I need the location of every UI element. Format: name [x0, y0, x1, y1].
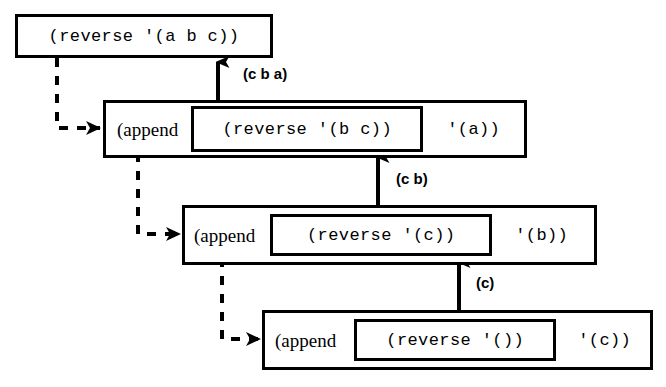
return-label-c: (c) — [476, 275, 494, 290]
call-arrow-1 — [57, 58, 100, 128]
call-frame-append-c[interactable]: (append (reverse '(c)) '(b)) — [182, 205, 597, 265]
append-tail-arg: '(b)) — [515, 227, 568, 244]
call-frame-reverse-abc[interactable]: (reverse '(a b c)) — [15, 14, 273, 58]
inner-expression: (reverse '()) — [386, 332, 524, 349]
inner-expression: (reverse '(c)) — [307, 227, 455, 244]
return-label-cb: (c b) — [396, 171, 428, 186]
frame-expression: (reverse '(a b c)) — [49, 28, 240, 45]
append-tail-arg: '(c)) — [578, 332, 631, 349]
call-arrow-3 — [222, 258, 260, 339]
append-keyword: (append — [194, 226, 255, 245]
append-keyword: (append — [275, 331, 336, 350]
call-frame-append-empty[interactable]: (append (reverse '()) '(c)) — [262, 310, 653, 370]
inner-call-reverse-empty[interactable]: (reverse '()) — [354, 319, 556, 361]
inner-call-reverse-c[interactable]: (reverse '(c)) — [270, 214, 492, 256]
inner-expression: (reverse '(b c)) — [222, 121, 392, 138]
inner-call-reverse-bc[interactable]: (reverse '(b c)) — [191, 106, 423, 152]
call-arrow-2 — [138, 153, 180, 234]
append-tail-arg: '(a)) — [447, 121, 500, 138]
call-frame-append-bc[interactable]: (append (reverse '(b c)) '(a)) — [103, 100, 527, 158]
recursion-diagram: (reverse '(a b c)) (append (reverse '(b … — [0, 0, 666, 387]
return-label-cba: (c b a) — [243, 66, 287, 81]
append-keyword: (append — [117, 120, 178, 139]
